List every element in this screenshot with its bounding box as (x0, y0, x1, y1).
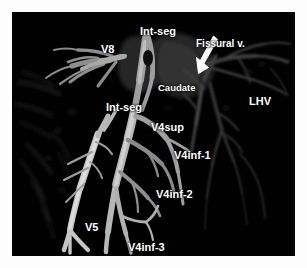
label-v4inf-2: V4inf-2 (156, 189, 193, 200)
venography-image (12, 12, 295, 256)
vessel-tree-rendering (12, 12, 295, 256)
label-int-seg-lower: Int-seg (106, 102, 142, 113)
figure-container: Int-seg V8 Fissural v. Caudate LHV Int-s… (0, 0, 307, 268)
label-fissural-vein: Fissural v. (196, 39, 245, 49)
label-int-seg-upper: Int-seg (140, 26, 176, 37)
label-v8: V8 (101, 44, 114, 55)
label-lhv: LHV (249, 96, 271, 107)
label-v5: V5 (85, 222, 98, 233)
label-v4sup: V4sup (151, 122, 184, 133)
label-v4inf-3: V4inf-3 (128, 242, 165, 253)
label-caudate: Caudate (158, 83, 195, 93)
label-v4inf-1: V4inf-1 (174, 150, 211, 161)
